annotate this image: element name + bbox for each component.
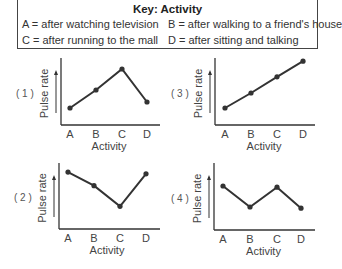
- up-arrow-icon: [207, 175, 211, 180]
- x-tick-label: B: [90, 232, 97, 244]
- x-tick-label: B: [246, 233, 253, 245]
- x-tick-label: B: [247, 128, 254, 140]
- x-tick-label: D: [299, 128, 307, 140]
- graph-3: Pulse rate( 3 )ABCDActivity: [171, 58, 315, 152]
- x-tick-label: D: [143, 128, 151, 140]
- data-point-d: [298, 206, 303, 211]
- x-tick-label: B: [92, 128, 99, 140]
- y-axis-label: Pulse rate: [36, 173, 48, 223]
- data-point-b: [247, 204, 252, 209]
- data-point-c: [274, 74, 279, 79]
- option-number: ( 3 ): [171, 88, 189, 99]
- data-point-c: [117, 204, 122, 209]
- data-point-c: [274, 185, 279, 190]
- x-axis-label: Activity: [246, 245, 281, 257]
- x-tick-label: A: [64, 232, 72, 244]
- graph-2: Pulse rate( 2 )ABCDActivity: [14, 163, 160, 256]
- y-axis-label: Pulse rate: [192, 69, 204, 119]
- data-point-a: [222, 105, 227, 110]
- data-point-a: [67, 105, 72, 110]
- x-tick-label: C: [273, 128, 281, 140]
- data-point-d: [144, 99, 149, 104]
- x-tick-label: A: [219, 233, 227, 245]
- x-tick-label: C: [273, 233, 281, 245]
- data-point-a: [65, 169, 70, 174]
- x-axis-label: Activity: [92, 140, 127, 152]
- graph-4: Pulse rate( 4 )ABCDActivity: [171, 163, 315, 257]
- up-arrow-icon: [208, 70, 212, 75]
- up-arrow-icon: [54, 70, 58, 75]
- data-point-a: [220, 183, 225, 188]
- x-tick-label: C: [118, 128, 126, 140]
- data-point-b: [248, 90, 253, 95]
- data-line: [223, 186, 301, 208]
- x-tick-label: A: [66, 128, 74, 140]
- data-line: [70, 69, 147, 108]
- option-number: ( 1 ): [16, 88, 34, 99]
- data-line: [225, 61, 303, 108]
- data-point-d: [143, 171, 148, 176]
- x-axis-label: Activity: [247, 140, 282, 152]
- graph-1: Pulse rate( 1 )ABCDActivity: [16, 58, 160, 152]
- up-arrow-icon: [52, 175, 56, 180]
- x-tick-label: D: [297, 233, 305, 245]
- data-point-d: [300, 59, 305, 64]
- y-axis-label: Pulse rate: [191, 174, 203, 224]
- data-point-c: [119, 66, 124, 71]
- data-line: [68, 172, 146, 206]
- data-point-b: [93, 87, 98, 92]
- x-tick-label: A: [221, 128, 229, 140]
- data-point-b: [91, 183, 96, 188]
- y-axis-label: Pulse rate: [38, 69, 50, 119]
- x-tick-label: D: [142, 232, 150, 244]
- option-number: ( 4 ): [171, 193, 189, 204]
- x-tick-label: C: [116, 232, 124, 244]
- x-axis-label: Activity: [90, 244, 125, 256]
- option-number: ( 2 ): [14, 192, 32, 203]
